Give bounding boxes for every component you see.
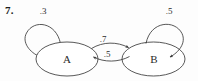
problem-number: 7. [5,5,14,16]
edge-label-loop-b: .5 [160,7,178,16]
figure-canvas: 7. A B .3 .7 .5 .5 [0,0,198,81]
node-label-b: B [144,54,164,65]
node-label-a: A [57,54,77,65]
edge-label-b-to-a: .5 [98,50,116,59]
edge-label-a-to-b: .7 [94,35,112,44]
edge-label-loop-a: .3 [34,7,52,16]
